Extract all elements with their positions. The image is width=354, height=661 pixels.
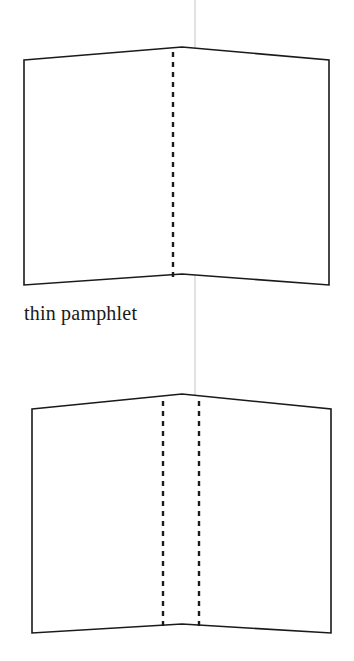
thin-pamphlet-open-booklet-top [24,47,329,285]
figure-caption: thin pamphlet [24,300,137,326]
thick-pamphlet-open-booklet-bottom [32,394,331,633]
pamphlet-diagram-figure [0,0,354,661]
booklet-outline-top [24,47,329,285]
booklet-outline-bottom [32,394,331,633]
